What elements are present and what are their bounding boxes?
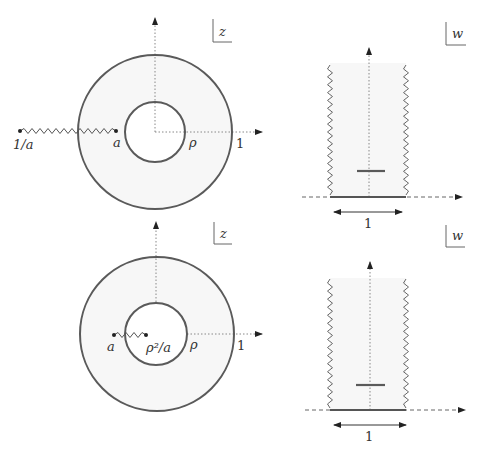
label-cut-end: a [113,135,121,150]
cut-endpoint-right [144,333,148,337]
z-plane-bottom-panel: a ρ²/a ρ 1 z [80,222,262,411]
cut-endpoint-left [112,333,116,337]
plane-tag-z: z [214,222,232,244]
label-outer-radius: 1 [237,338,245,353]
label-inner-radius: ρ [189,337,198,352]
z-plane-top-panel: 1/a a ρ 1 z [13,18,262,209]
strip-fill [330,278,406,410]
label-outer-radius: 1 [236,136,244,151]
cut-endpoint-left [18,129,22,133]
label-inner-radius: ρ [188,135,197,150]
svg-text:z: z [219,226,227,241]
label-width: 1 [364,216,372,231]
svg-text:w: w [452,228,463,243]
strip-fill [330,63,406,197]
svg-text:w: w [452,26,463,41]
plane-tag-w: w [446,225,465,247]
cut-endpoint-right [114,129,118,133]
label-cut-start: 1/a [13,137,33,152]
w-plane-top-panel: 1 w [302,22,466,231]
inner-circle [125,303,187,365]
w-plane-bottom-panel: 1 w [305,225,465,444]
svg-text:z: z [218,24,226,39]
label-width: 1 [365,429,373,444]
plane-tag-w: w [446,22,466,45]
label-cut-end: ρ²/a [145,340,171,355]
figure: 1/a a ρ 1 z 1 w a ρ²/a ρ [0,0,486,455]
label-cut-start: a [107,339,115,354]
plane-tag-z: z [213,19,232,42]
